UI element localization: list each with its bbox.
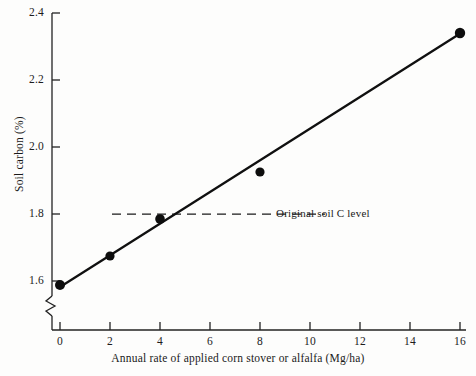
x-tick-label: 0 (45, 335, 75, 347)
x-tick-label: 16 (445, 335, 475, 347)
x-tick-label: 4 (145, 335, 175, 347)
y-axis-break-icon (46, 296, 55, 316)
y-tick-label: 1.6 (10, 274, 44, 286)
regression-line (60, 33, 461, 287)
data-point (105, 251, 114, 260)
reference-line-label: Original soil C level (276, 207, 370, 219)
x-tick-marks (60, 322, 460, 330)
x-tick-label: 10 (295, 335, 325, 347)
y-axis-title: Soil carbon (%) (13, 94, 25, 214)
data-point (55, 280, 65, 290)
y-tick-label: 2.2 (10, 73, 44, 85)
x-tick-label: 2 (95, 335, 125, 347)
chart-figure: 2.4 2.2 2.0 1.8 1.6 0 2 4 6 8 10 12 14 1… (0, 0, 476, 376)
x-tick-label: 14 (395, 335, 425, 347)
data-point (455, 28, 465, 38)
data-point (155, 214, 165, 224)
plot-canvas (0, 0, 476, 376)
y-tick-marks (52, 13, 60, 281)
data-point (255, 167, 264, 176)
x-axis-title: Annual rate of applied corn stover or al… (0, 352, 476, 364)
x-tick-label: 8 (245, 335, 275, 347)
x-tick-label: 12 (345, 335, 375, 347)
x-tick-label: 6 (195, 335, 225, 347)
y-tick-label: 2.4 (10, 6, 44, 18)
